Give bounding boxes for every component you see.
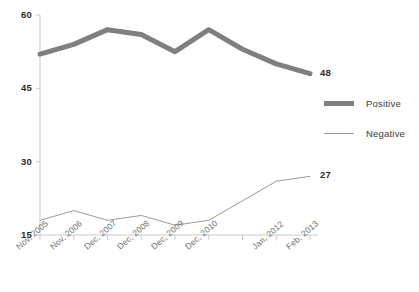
legend-line-negative-icon: [324, 127, 354, 139]
legend-line-positive-icon: [324, 97, 354, 109]
end-value-label-positive: 48: [320, 67, 331, 78]
y-axis-tick-label: 30: [6, 156, 32, 167]
end-value-label-negative: 27: [320, 169, 331, 180]
legend-label-positive: Positive: [366, 98, 401, 109]
y-axis-tick-label: 45: [6, 82, 32, 93]
legend-item-negative[interactable]: Negative: [324, 118, 419, 148]
chart-legend: Positive Negative: [324, 88, 419, 148]
line-chart: 15304560 Nov, 2005Nov, 2006Dec, 2007Dec,…: [0, 0, 419, 292]
series-line-negative: [40, 176, 310, 225]
y-axis-tick-label: 60: [6, 9, 32, 20]
legend-label-negative: Negative: [366, 128, 405, 139]
legend-item-positive[interactable]: Positive: [324, 88, 419, 118]
series-line-positive: [40, 30, 310, 74]
